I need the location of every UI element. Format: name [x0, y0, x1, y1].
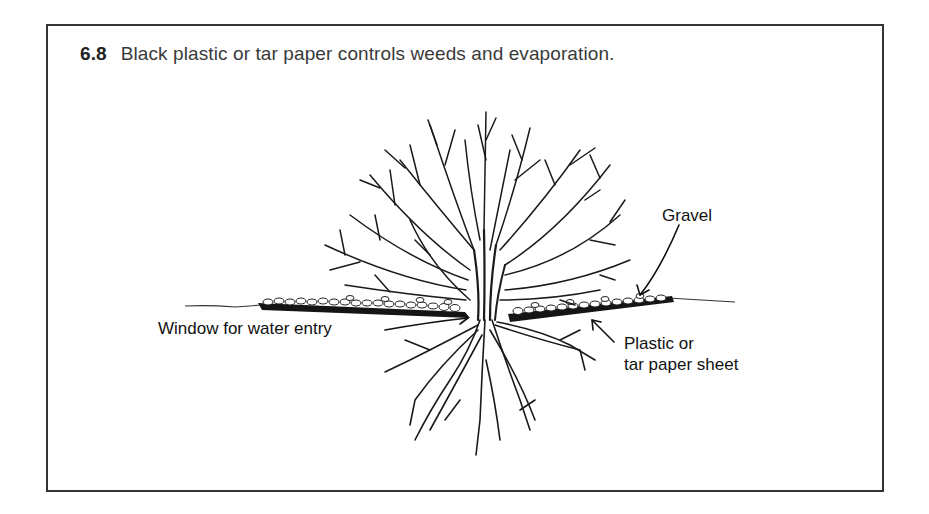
gravel-arrow [640, 225, 679, 295]
tree-roots [385, 320, 595, 455]
sheet-arrow [592, 320, 614, 342]
label-sheet-line1: Plastic or [624, 333, 694, 354]
tree-trunk [474, 230, 505, 320]
label-gravel: Gravel [662, 205, 712, 226]
label-sheet-line2: tar paper sheet [624, 354, 738, 375]
label-window: Window for water entry [158, 318, 332, 339]
arrows [385, 225, 679, 342]
tree-mulch-illustration [0, 0, 929, 514]
window-arrow [385, 318, 468, 330]
